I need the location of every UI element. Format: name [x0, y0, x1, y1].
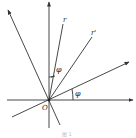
diagram-canvas: r r' φ φ O 图 1 — [0, 0, 136, 138]
label-r: r — [63, 16, 67, 24]
origin-point — [48, 99, 51, 102]
y-prime-axis — [8, 10, 60, 125]
angle-arrow-y-r — [51, 76, 55, 77]
label-r-prime: r' — [91, 29, 96, 37]
vector-r — [49, 24, 63, 100]
figure-caption: 图 1 — [62, 131, 72, 138]
angle-arc-x-xprime — [72, 89, 73, 100]
label-phi-upper: φ — [56, 65, 62, 74]
label-origin: O — [42, 104, 48, 112]
x-prime-axis — [12, 62, 129, 117]
label-phi-lower: φ — [75, 89, 81, 98]
